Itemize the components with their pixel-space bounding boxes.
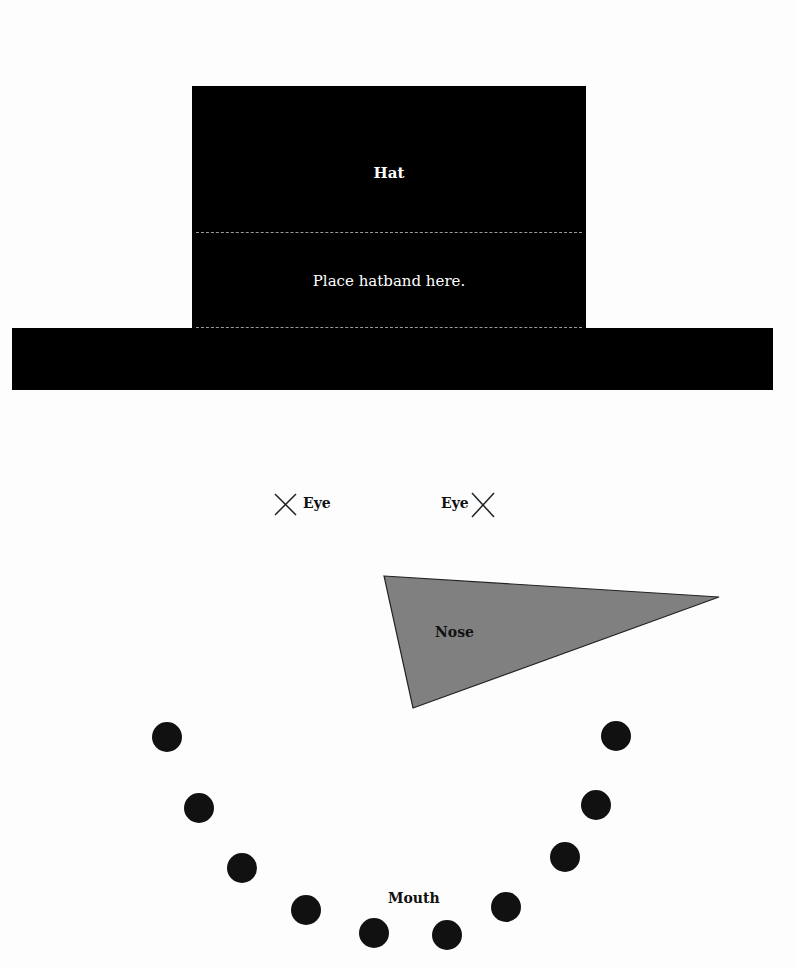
mouth-dot xyxy=(491,892,521,922)
right-eye-label: Eye xyxy=(441,495,469,511)
mouth-dot xyxy=(432,920,462,950)
mouth-dot xyxy=(184,793,214,823)
mouth-dot xyxy=(152,722,182,752)
mouth-dot xyxy=(291,895,321,925)
nose-label: Nose xyxy=(435,624,474,640)
right-eye-x-icon xyxy=(472,493,494,517)
face-layer xyxy=(0,0,795,967)
mouth-dot xyxy=(550,842,580,872)
mouth-dot xyxy=(359,918,389,948)
nose-triangle xyxy=(384,576,719,708)
mouth-dots xyxy=(152,721,631,950)
mouth-dot xyxy=(601,721,631,751)
mouth-dot xyxy=(581,790,611,820)
left-eye-x-icon xyxy=(275,494,296,515)
mouth-label: Mouth xyxy=(388,890,440,906)
mouth-dot xyxy=(227,853,257,883)
left-eye-label: Eye xyxy=(303,495,331,511)
